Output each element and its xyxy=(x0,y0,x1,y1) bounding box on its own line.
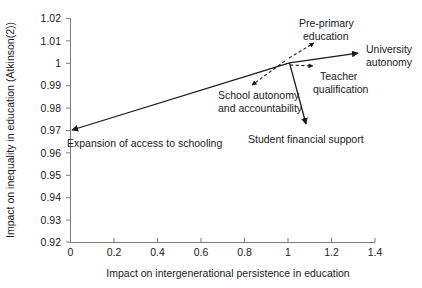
annotation-teacher-qualification-line2: qualification xyxy=(313,83,369,95)
y-tick-label-0.97: 0.97 xyxy=(41,124,62,136)
annotation-university-autonomy-line2: autonomy xyxy=(366,56,413,68)
x-tick-label-0: 0 xyxy=(68,246,74,258)
annotation-pre-primary-line2: education xyxy=(303,30,349,42)
x-tick-label-0.6: 0.6 xyxy=(194,246,209,258)
y-tick-label-0.93: 0.93 xyxy=(41,214,62,226)
annotation-school-autonomy-line2: and accountability xyxy=(218,102,303,114)
x-tick-label-1: 1 xyxy=(285,246,291,258)
x-axis-title: Impact on intergenerational persistence … xyxy=(106,267,350,279)
annotation-teacher-qualification-line1: Teacher xyxy=(320,70,358,82)
annotation-expansion-of-access-to-schooling: Expansion of access to schooling xyxy=(67,137,222,149)
x-tick-label-0.2: 0.2 xyxy=(107,246,122,258)
y-tick-label-0.98: 0.98 xyxy=(41,102,62,114)
annotation-student-financial-support: Student financial support xyxy=(248,133,364,145)
y-tick-label-1.02: 1.02 xyxy=(41,12,62,24)
y-axis-title: Impact on inequality in education (Atkin… xyxy=(4,22,16,238)
x-tick-label-1.4: 1.4 xyxy=(368,246,383,258)
y-tick-label-0.94: 0.94 xyxy=(41,191,62,203)
annotation-pre-primary-line1: Pre-primary xyxy=(299,17,355,29)
x-tick-label-0.4: 0.4 xyxy=(150,246,165,258)
annotation-school-autonomy-line1: School autonomy xyxy=(218,89,300,101)
x-tick-label-1.2: 1.2 xyxy=(324,246,339,258)
annotation-university-autonomy-line1: University xyxy=(366,43,413,55)
y-tick-label-0.96: 0.96 xyxy=(41,147,62,159)
y-tick-label-1: 1 xyxy=(55,57,61,69)
y-tick-label-0.95: 0.95 xyxy=(41,169,62,181)
y-tick-label-0.99: 0.99 xyxy=(41,79,62,91)
x-tick-label-0.8: 0.8 xyxy=(237,246,252,258)
y-tick-label-0.92: 0.92 xyxy=(41,236,62,248)
y-tick-label-1.01: 1.01 xyxy=(41,35,62,47)
scatter-line-chart: 1.02 1.01 1 0.99 0.98 0.97 0.96 0.95 0.9… xyxy=(0,0,422,288)
